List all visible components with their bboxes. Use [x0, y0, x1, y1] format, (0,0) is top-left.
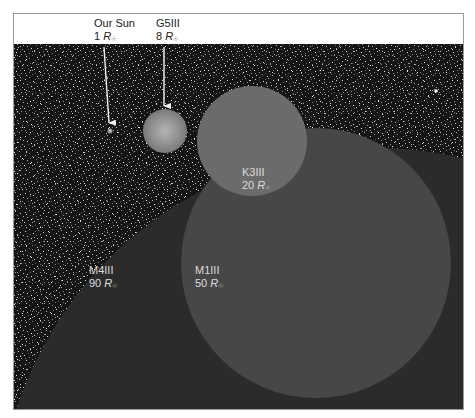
starfield-scene: K3III 20 R☉ M1III 50 R☉ M4III 90 R☉ [14, 44, 463, 409]
m4iii-name: M4III [89, 264, 117, 277]
sun-name: Our Sun [94, 17, 135, 30]
m1iii-label: M1III 50 R☉ [195, 264, 223, 293]
label-band: Our Sun 1 R☉ G5III 8 R☉ [14, 14, 463, 44]
sun-label: Our Sun 1 R☉ [94, 17, 135, 46]
k3iii-name: K3III [242, 166, 270, 179]
bright-star-icon [434, 89, 438, 93]
g5iii-label: G5III 8 R☉ [156, 17, 180, 46]
m4iii-label: M4III 90 R☉ [89, 264, 117, 293]
star-sun [107, 128, 112, 133]
m1iii-name: M1III [195, 264, 223, 277]
star-size-diagram [14, 44, 463, 409]
m1iii-radius: 50 R☉ [195, 277, 223, 293]
g5iii-name: G5III [156, 17, 180, 30]
star-g5iii [143, 109, 187, 153]
m4iii-radius: 90 R☉ [89, 277, 117, 293]
k3iii-radius: 20 R☉ [242, 179, 270, 195]
figure-frame: Our Sun 1 R☉ G5III 8 R☉ [13, 13, 464, 410]
k3iii-label: K3III 20 R☉ [242, 166, 270, 195]
